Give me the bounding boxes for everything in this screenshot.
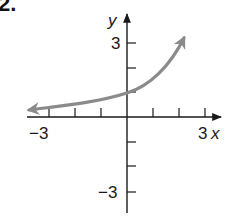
exponential-curve [29,38,184,110]
x-min-label: −3 [29,124,48,143]
x-axis-label: x [210,124,220,143]
y-max-label: 3 [111,34,120,53]
x-max-label: 3 [198,124,207,143]
exponential-graph: y 3 −3 −3 3 x [0,0,228,218]
y-min-label: −3 [98,183,117,202]
y-axis-label: y [107,11,118,30]
